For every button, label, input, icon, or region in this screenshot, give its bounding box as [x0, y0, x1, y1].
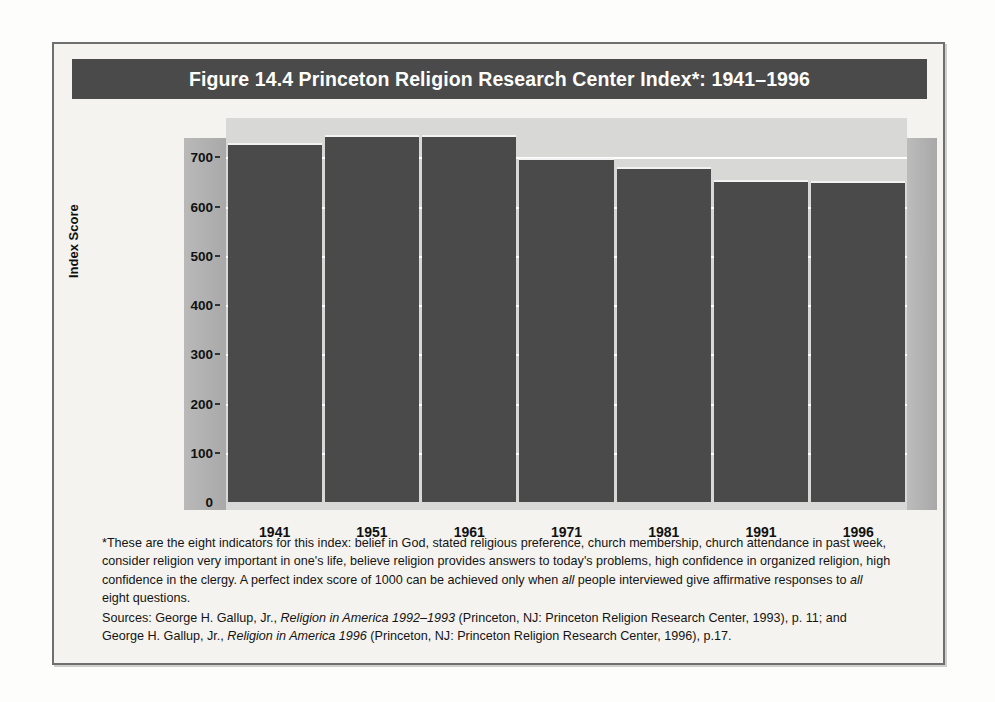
y-axis-tick-label: 200 [190, 396, 213, 411]
bar-top-highlight [617, 167, 711, 169]
y-axis-tick-label: 400 [190, 298, 213, 313]
bar-top-highlight [422, 135, 516, 137]
bar-1941 [228, 143, 322, 502]
bar-top-highlight [325, 135, 419, 137]
chart-right-wall [907, 138, 937, 510]
bar-top-highlight [228, 143, 322, 145]
bar-1981 [617, 167, 711, 502]
chart-area: Index Score 0100200300400500600700194119… [72, 110, 927, 500]
y-axis-tick-label: 100 [190, 445, 213, 460]
y-axis-tick-label: 300 [190, 347, 213, 362]
y-axis-tick-label: 700 [190, 150, 213, 165]
footnote-sources-text-3: (Princeton, NJ: Princeton Religion Resea… [367, 629, 732, 643]
plot-region: 0100200300400500600700194119511961197119… [226, 118, 907, 510]
footnote-note-text-3: eight questions. [102, 591, 190, 605]
bar-1951 [325, 135, 419, 502]
y-axis-tick-mark [215, 206, 220, 208]
footnote-sources-italic-2: Religion in America 1996 [227, 629, 367, 643]
footnote-sources-italic-1: Religion in America 1992–1993 [281, 611, 456, 625]
bar-1991 [714, 180, 808, 502]
y-axis-tick-mark [215, 255, 220, 257]
figure-frame: Figure 14.4 Princeton Religion Research … [52, 42, 945, 665]
bar-1996 [811, 181, 905, 502]
y-axis-tick-mark [215, 452, 220, 454]
y-axis-tick-mark [215, 403, 220, 405]
page-root: Figure 14.4 Princeton Religion Research … [0, 0, 995, 702]
bar-top-highlight [714, 180, 808, 182]
y-axis-tick-mark [215, 353, 220, 355]
y-axis-tick-label: 0 [205, 495, 213, 510]
bar-1971 [519, 158, 613, 502]
y-axis-tick-label: 600 [190, 199, 213, 214]
y-axis-title: Index Score [66, 204, 81, 278]
footnote-note-italic-2: all [850, 573, 863, 587]
figure-title-bar: Figure 14.4 Princeton Religion Research … [72, 59, 927, 99]
figure-title: Figure 14.4 Princeton Religion Research … [189, 68, 810, 91]
y-axis-tick-mark [215, 156, 220, 158]
bar-1961 [422, 135, 516, 502]
footnote-note-italic-1: all [562, 573, 575, 587]
footnote-note-text-2: people interviewed give affirmative resp… [574, 573, 850, 587]
footnote-sources-text-1: Sources: George H. Gallup, Jr., [102, 611, 281, 625]
footnote-note: *These are the eight indicators for this… [102, 534, 892, 607]
y-axis-tick-label: 500 [190, 248, 213, 263]
footnote-sources: Sources: George H. Gallup, Jr., Religion… [102, 609, 892, 646]
y-axis-tick-mark [215, 304, 220, 306]
bar-top-highlight [519, 158, 613, 160]
bar-top-highlight [811, 181, 905, 183]
figure-footnote: *These are the eight indicators for this… [102, 534, 892, 646]
